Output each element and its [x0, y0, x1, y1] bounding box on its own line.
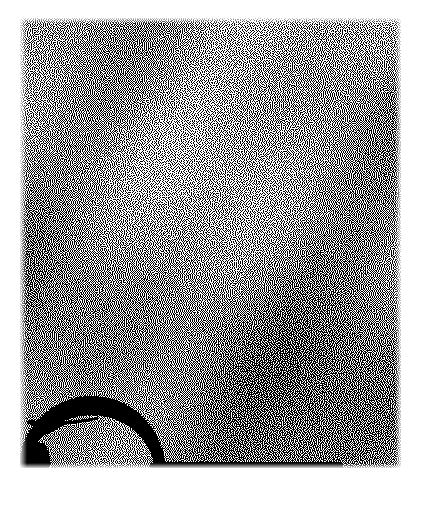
- dither-canvas: [20, 18, 401, 468]
- scan-image-root: [0, 0, 421, 512]
- dithered-scan-region: [20, 18, 401, 468]
